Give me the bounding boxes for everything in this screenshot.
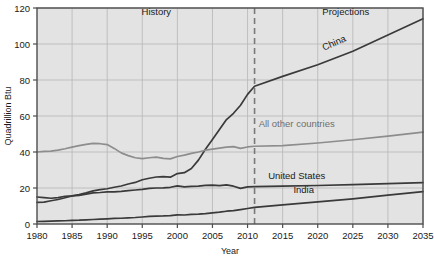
energy-consumption-chart: 0204060801001201980198519901995200020052… [0, 0, 434, 259]
annotation-projections: Projections [322, 6, 369, 17]
x-tick-label: 2015 [272, 230, 293, 241]
annotation-united-states: United States [268, 170, 325, 181]
x-tick-label: 2010 [237, 230, 258, 241]
x-axis-title: Year [221, 246, 239, 256]
x-tick-label: 2035 [412, 230, 433, 241]
chart-canvas: 0204060801001201980198519901995200020052… [0, 0, 434, 259]
annotation-history: History [142, 6, 172, 17]
y-tick-label: 60 [19, 111, 30, 122]
x-tick-label: 2020 [307, 230, 328, 241]
x-tick-label: 2030 [377, 230, 398, 241]
x-tick-label: 2025 [342, 230, 363, 241]
x-tick-label: 1980 [26, 230, 47, 241]
x-tick-label: 1990 [97, 230, 118, 241]
annotation-all-other-countries: All other countries [259, 118, 335, 129]
y-tick-label: 20 [19, 183, 30, 194]
y-tick-label: 100 [14, 39, 30, 50]
y-tick-label: 40 [19, 147, 30, 158]
y-tick-label: 0 [25, 219, 30, 230]
x-tick-label: 1995 [132, 230, 153, 241]
y-axis-title: Quadrillion Btu [3, 86, 13, 145]
x-tick-label: 2000 [167, 230, 188, 241]
annotation-india: India [293, 184, 314, 195]
x-tick-label: 2005 [202, 230, 223, 241]
y-tick-label: 120 [14, 3, 30, 14]
x-tick-label: 1985 [62, 230, 83, 241]
y-tick-label: 80 [19, 75, 30, 86]
